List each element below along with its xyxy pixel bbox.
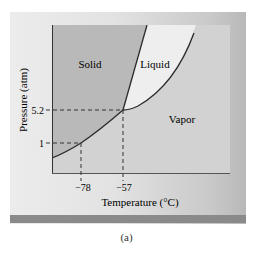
y-tick-1: 1 (39, 138, 44, 149)
y-axis-label: Pressure (atm) (17, 68, 30, 132)
phase-diagram: Solid Liquid Vapor 5.2 1 −78 −57 Tempera… (0, 0, 253, 254)
x-tick-minus-78: −78 (75, 182, 91, 193)
y-tick-5-2: 5.2 (32, 105, 45, 116)
vapor-label: Vapor (169, 113, 196, 125)
x-tick-minus-57: −57 (116, 182, 132, 193)
liquid-label: Liquid (140, 58, 170, 70)
x-axis-label: Temperature (°C) (101, 196, 179, 209)
figure-caption: (a) (0, 231, 253, 243)
solid-label: Solid (78, 58, 102, 70)
